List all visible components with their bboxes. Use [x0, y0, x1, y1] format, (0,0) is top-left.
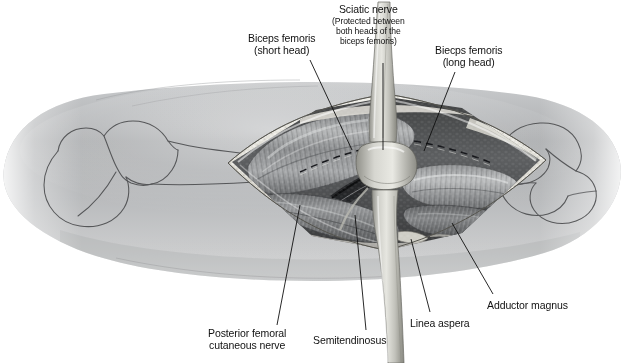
label-line-2: (long head)	[435, 57, 502, 69]
label-line-1: Biecps femoris	[435, 45, 502, 57]
label-line-2: (short head)	[248, 45, 315, 57]
label-line-1: Linea aspera	[410, 318, 470, 330]
label-line-1: Adductor magnus	[487, 300, 568, 312]
label-sub-1: (Protected between	[332, 16, 405, 26]
label-adductor-magnus: Adductor magnus	[487, 300, 568, 312]
label-semitendinosus: Semitendinosus	[313, 335, 386, 347]
label-biceps-femoris-short-head: Biceps femoris(short head)	[248, 33, 315, 56]
label-line-2: cutaneous nerve	[208, 340, 286, 352]
sciatic-nerve-mid-swelling	[356, 142, 417, 190]
label-sciatic-nerve: Sciatic nerve(Protected betweenboth head…	[332, 4, 405, 46]
label-linea-aspera: Linea aspera	[410, 318, 470, 330]
label-sub-2: both heads of the	[332, 26, 405, 36]
label-sub-3: biceps femoris)	[332, 36, 405, 46]
label-biceps-femoris-long-head: Biecps femoris(long head)	[435, 45, 502, 68]
label-line-1: Biceps femoris	[248, 33, 315, 45]
label-line-1: Semitendinosus	[313, 335, 386, 347]
label-line-1: Posterior femoral	[208, 328, 286, 340]
label-posterior-femoral-cutaneous-nerve: Posterior femoralcutaneous nerve	[208, 328, 286, 351]
label-line-1: Sciatic nerve	[332, 4, 405, 16]
